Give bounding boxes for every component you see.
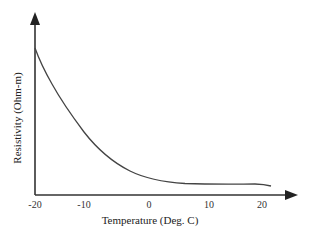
x-axis-arrow-icon: [285, 190, 298, 200]
resistivity-curve: [35, 48, 271, 186]
x-tick-label: -20: [28, 199, 41, 210]
x-tick-label: 0: [147, 199, 152, 210]
y-axis-arrow-icon: [30, 12, 40, 25]
x-axis-title: Temperature (Deg. C): [102, 214, 199, 227]
resistivity-temperature-chart: -20 -10 0 10 20 Temperature (Deg. C) Res…: [0, 0, 312, 236]
x-tick-label: 20: [257, 199, 267, 210]
x-tick-label: -10: [77, 199, 90, 210]
y-axis-title: Resistivity (Ohm-m): [11, 72, 24, 164]
x-tick-label: 10: [204, 199, 214, 210]
x-tick-labels: -20 -10 0 10 20: [28, 199, 267, 210]
